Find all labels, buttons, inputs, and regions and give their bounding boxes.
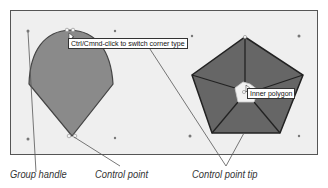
caption-control-point: Control point xyxy=(95,168,148,180)
caption-control-point-tip: Control point tip xyxy=(192,168,257,180)
corner-type-tooltip: Ctrl/Cmnd-click to switch corner type xyxy=(68,38,188,49)
inner-polygon-tooltip: Inner polygon xyxy=(247,88,295,99)
caption-group-handle: Group handle xyxy=(10,168,67,180)
